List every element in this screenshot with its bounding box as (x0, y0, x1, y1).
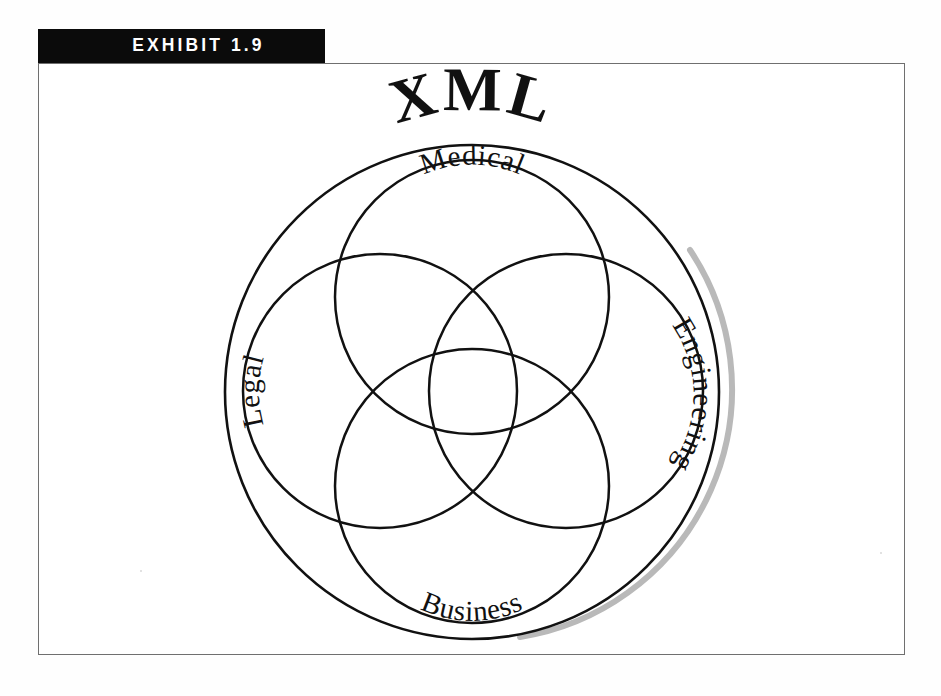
figure-frame (38, 63, 905, 655)
exhibit-banner: EXHIBIT 1.9 (38, 29, 325, 63)
exhibit-page: EXHIBIT 1.9 XML (0, 0, 941, 696)
scan-speck (140, 570, 142, 572)
exhibit-banner-label: EXHIBIT 1.9 (132, 37, 264, 55)
scan-speck (880, 552, 882, 554)
